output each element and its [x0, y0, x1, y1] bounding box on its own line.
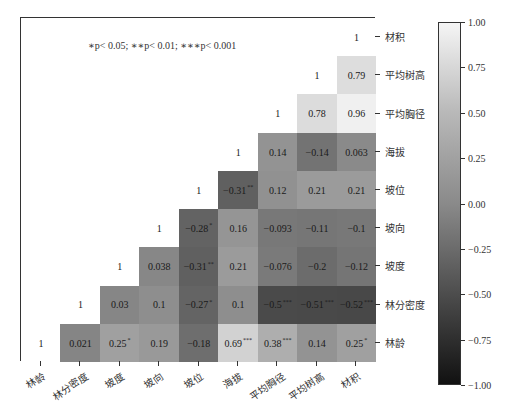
colorbar-tick-label: 0.00 — [468, 198, 486, 209]
colorbar-tick — [461, 67, 465, 68]
colorbar-tick — [461, 158, 465, 159]
colorbar-tick-label: 0.50 — [468, 107, 486, 118]
colorbar-tick-label: 0.75 — [468, 62, 486, 73]
heatmap-cell: 0.21 — [297, 171, 337, 210]
x-tick-label: 海拔 — [220, 368, 245, 392]
heatmap-cell: 0.1 — [139, 286, 179, 325]
heatmap-cell: 0.69*** — [218, 324, 258, 363]
heatmap-cell: −0.5*** — [258, 286, 298, 325]
heatmap-cell: −0.31** — [218, 171, 258, 210]
x-tick — [237, 361, 238, 366]
y-tick-label: 海拔 — [385, 143, 405, 158]
x-tick-label: 林龄 — [22, 368, 47, 392]
colorbar-tick-label: 1.00 — [468, 17, 486, 28]
heatmap-cell: 1 — [139, 209, 179, 248]
heatmap-cell: 0.78 — [297, 94, 337, 133]
y-tick-label: 林分密度 — [385, 296, 425, 311]
x-tick — [276, 361, 277, 366]
y-tick — [375, 304, 380, 305]
heatmap-cell: 1 — [21, 324, 61, 363]
y-tick — [375, 113, 380, 114]
x-tick — [40, 361, 41, 366]
x-tick — [158, 361, 159, 366]
heatmap-cell: −0.12 — [337, 247, 377, 286]
colorbar-tick-label: −0.50 — [468, 289, 491, 300]
heatmap-cell: 0.25* — [100, 324, 140, 363]
heatmap-cell: 0.038 — [139, 247, 179, 286]
x-tick-label: 平均树高 — [286, 368, 327, 403]
heatmap-cell: −0.18 — [179, 324, 219, 363]
heatmap-cell: 0.1 — [218, 286, 258, 325]
heatmap-cell: 0.38*** — [258, 324, 298, 363]
x-tick — [316, 361, 317, 366]
colorbar-tick — [461, 385, 465, 386]
x-tick — [198, 361, 199, 366]
heatmap-cell: 1 — [337, 18, 377, 57]
heatmap-cell: −0.27* — [179, 286, 219, 325]
y-tick-label: 材积 — [385, 29, 405, 44]
heatmap-cell: −0.52*** — [337, 286, 377, 325]
colorbar — [438, 22, 461, 385]
y-tick — [375, 151, 380, 152]
y-tick-label: 林龄 — [385, 334, 405, 349]
x-tick — [119, 361, 120, 366]
heatmap-cell: 0.79 — [337, 56, 377, 95]
heatmap-cell: −0.1 — [337, 209, 377, 248]
heatmap-cell: 0.063 — [337, 133, 377, 172]
x-tick-label: 材积 — [338, 368, 363, 392]
heatmap-cell: 0.19 — [139, 324, 179, 363]
x-tick-label: 坡位 — [180, 368, 205, 392]
x-tick-label: 平均胸径 — [246, 368, 287, 403]
heatmap-cell: 1 — [218, 133, 258, 172]
x-tick — [79, 361, 80, 366]
y-tick — [375, 36, 380, 37]
heatmap-cell: −0.28* — [179, 209, 219, 248]
y-tick — [375, 74, 380, 75]
heatmap-cell: 0.21 — [337, 171, 377, 210]
heatmap-cell: −0.51*** — [297, 286, 337, 325]
colorbar-tick — [461, 204, 465, 205]
y-tick — [375, 227, 380, 228]
heatmap-cell: 0.16 — [218, 209, 258, 248]
y-tick-label: 平均树高 — [385, 67, 425, 82]
heatmap-cell: −0.31** — [179, 247, 219, 286]
colorbar-tick-label: −1.00 — [468, 380, 491, 391]
colorbar-tick — [461, 22, 465, 23]
colorbar-tick-label: −0.75 — [468, 334, 491, 345]
heatmap-cell: −0.14 — [297, 133, 337, 172]
colorbar-tick-label: −0.25 — [468, 243, 491, 254]
heatmap-cell: 1 — [179, 171, 219, 210]
heatmap-plot-area: 110.7910.780.9610.14−0.140.0631−0.31**0.… — [20, 17, 375, 361]
y-tick-label: 坡向 — [385, 220, 405, 235]
colorbar-tick — [461, 113, 465, 114]
x-tick-label: 林分密度 — [49, 368, 90, 403]
heatmap-cell: 0.96 — [337, 94, 377, 133]
heatmap-cell: 1 — [258, 94, 298, 133]
x-tick-label: 坡度 — [101, 368, 126, 392]
colorbar-tick — [461, 294, 465, 295]
y-tick — [375, 189, 380, 190]
heatmap-cell: 0.021 — [60, 324, 100, 363]
x-tick-label: 坡向 — [141, 368, 166, 392]
heatmap-cell: −0.2 — [297, 247, 337, 286]
colorbar-tick-label: 0.25 — [468, 153, 486, 164]
heatmap-cell: 0.14 — [258, 133, 298, 172]
y-tick — [375, 265, 380, 266]
x-tick — [355, 361, 356, 366]
heatmap-cell: 0.21 — [218, 247, 258, 286]
colorbar-tick — [461, 249, 465, 250]
y-tick — [375, 342, 380, 343]
y-tick-label: 坡位 — [385, 182, 405, 197]
heatmap-cell: −0.093 — [258, 209, 298, 248]
y-tick-label: 平均胸径 — [385, 105, 425, 120]
heatmap-cell: 0.25* — [337, 324, 377, 363]
y-tick-label: 坡度 — [385, 258, 405, 273]
heatmap-cell: 0.14 — [297, 324, 337, 363]
heatmap-cell: 0.03 — [100, 286, 140, 325]
heatmap-cell: 1 — [60, 286, 100, 325]
colorbar-tick — [461, 340, 465, 341]
heatmap-cell: −0.076 — [258, 247, 298, 286]
heatmap-cell: 1 — [297, 56, 337, 95]
heatmap-cell: 1 — [100, 247, 140, 286]
heatmap-cell: 0.12 — [258, 171, 298, 210]
